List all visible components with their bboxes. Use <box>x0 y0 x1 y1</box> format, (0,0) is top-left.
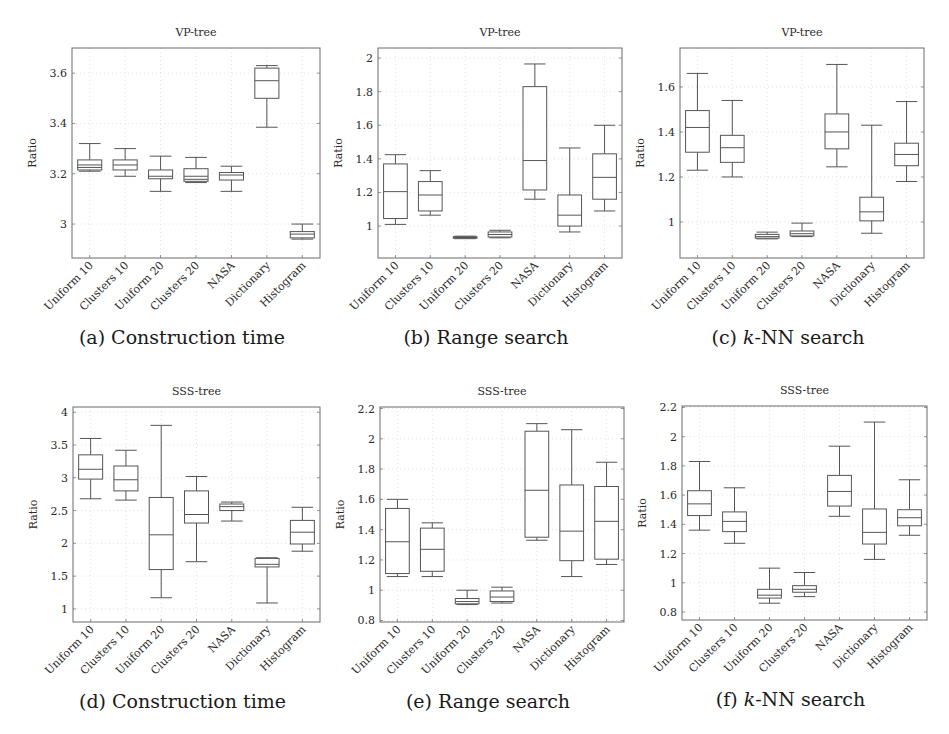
y-tick-label: 3.5 <box>51 439 69 452</box>
box-uniform-10 <box>384 155 408 225</box>
subfigure-caption: (a) Construction time <box>79 326 285 348</box>
iqr-box <box>220 504 244 511</box>
panel-title: SSS-tree <box>477 385 526 398</box>
y-tick-label: 3 <box>61 472 68 485</box>
box-uniform-10 <box>686 73 710 170</box>
iqr-box <box>688 491 712 516</box>
box-uniform-10 <box>78 144 102 172</box>
y-tick-label: 1.8 <box>358 463 376 476</box>
box-clusters-10 <box>420 523 444 577</box>
y-tick-label: 2.2 <box>660 401 678 414</box>
panel-title: VP-tree <box>478 26 520 39</box>
box-uniform-20 <box>149 425 173 597</box>
iqr-box <box>558 195 582 226</box>
box-clusters-20 <box>185 476 209 561</box>
box-uniform-20 <box>453 236 477 239</box>
y-tick-label: 1.4 <box>356 153 374 166</box>
y-tick-label: 2 <box>61 537 68 550</box>
y-axis-label: Ratio <box>634 138 647 168</box>
y-tick-label: 1 <box>668 216 675 229</box>
subfigure-caption: (b) Range search <box>403 326 568 348</box>
box-dictionary <box>863 422 887 559</box>
y-tick-label: 1 <box>368 584 375 597</box>
iqr-box <box>828 475 852 506</box>
y-axis-label: Ratio <box>334 499 347 529</box>
box-clusters-20 <box>793 573 817 597</box>
box-dictionary <box>560 430 584 577</box>
iqr-box <box>418 182 442 211</box>
iqr-box <box>593 154 617 199</box>
iqr-box <box>523 87 547 190</box>
box-histogram <box>290 224 314 239</box>
y-axis-label: Ratio <box>332 138 345 168</box>
iqr-box <box>149 170 173 179</box>
box-nasa <box>523 64 547 199</box>
box-histogram <box>290 507 314 551</box>
box-uniform-20 <box>455 590 479 604</box>
box-clusters-20 <box>184 157 208 182</box>
iqr-box <box>825 114 849 149</box>
figure: VP-tree33.23.43.6RatioUniform 10Clusters… <box>0 0 949 734</box>
chart-panel-b: VP-tree11.21.41.61.82RatioUniform 10Clus… <box>332 26 622 348</box>
iqr-box <box>386 508 410 573</box>
y-tick-label: 1.6 <box>660 489 678 502</box>
y-tick-label: 1.4 <box>658 126 676 139</box>
iqr-box <box>525 431 549 537</box>
y-tick-label: 1.6 <box>356 119 374 132</box>
box-nasa <box>828 446 852 516</box>
y-tick-label: 4 <box>61 406 68 419</box>
iqr-box <box>185 491 209 523</box>
subfigure-caption: (e) Range search <box>406 690 570 712</box>
iqr-box <box>114 466 138 491</box>
iqr-box <box>255 558 279 567</box>
x-category-label: NASA <box>508 258 541 291</box>
box-clusters-10 <box>418 171 442 216</box>
y-tick-label: 3.4 <box>50 117 68 130</box>
box-uniform-20 <box>758 568 782 603</box>
chart-panel-a: VP-tree33.23.43.6RatioUniform 10Clusters… <box>26 26 320 348</box>
box-uniform-20 <box>149 156 173 191</box>
y-tick-label: 1.8 <box>660 460 678 473</box>
y-tick-label: 2.2 <box>358 403 376 416</box>
y-tick-label: 1.2 <box>358 554 376 567</box>
box-uniform-10 <box>79 438 103 498</box>
chart-panels: VP-tree33.23.43.6RatioUniform 10Clusters… <box>26 26 927 712</box>
box-clusters-10 <box>114 450 138 500</box>
panel-title: SSS-tree <box>172 385 221 398</box>
y-tick-label: 3.6 <box>50 67 68 80</box>
panel-title: VP-tree <box>780 26 822 39</box>
box-nasa <box>525 424 549 541</box>
y-tick-label: 1.6 <box>358 493 376 506</box>
y-tick-label: 1.6 <box>658 81 676 94</box>
iqr-box <box>863 509 887 544</box>
y-axis-label: Ratio <box>27 499 40 529</box>
iqr-box <box>720 135 744 162</box>
box-clusters-20 <box>490 587 514 603</box>
y-tick-label: 1 <box>61 603 68 616</box>
subfigure-caption: (f) k-NN search <box>716 688 865 710</box>
box-nasa <box>825 64 849 166</box>
x-category-label: NASA <box>205 258 238 291</box>
box-nasa <box>220 502 244 521</box>
y-tick-label: 1.2 <box>356 186 374 199</box>
subfigure-caption: (c) k-NN search <box>711 326 864 348</box>
y-tick-label: 0.8 <box>358 614 376 627</box>
panel-title: VP-tree <box>174 26 216 39</box>
box-dictionary <box>255 66 279 128</box>
y-tick-label: 1.2 <box>658 171 676 184</box>
iqr-box <box>860 197 884 221</box>
y-tick-label: 1.4 <box>660 518 678 531</box>
y-tick-label: 3.2 <box>50 168 68 181</box>
y-tick-label: 3 <box>60 218 67 231</box>
y-tick-label: 2 <box>366 52 373 65</box>
y-tick-label: 2 <box>368 433 375 446</box>
y-tick-label: 1.8 <box>356 86 374 99</box>
box-dictionary <box>860 125 884 233</box>
y-tick-label: 1.5 <box>51 570 69 583</box>
y-tick-label: 1.2 <box>660 548 678 561</box>
iqr-box <box>758 589 782 598</box>
iqr-box <box>686 111 710 153</box>
box-uniform-10 <box>688 462 712 531</box>
chart-panel-d: SSS-tree11.522.533.54RatioUniform 10Clus… <box>27 385 320 712</box>
chart-panel-e: SSS-tree0.811.21.41.61.822.2RatioUniform… <box>334 385 624 712</box>
